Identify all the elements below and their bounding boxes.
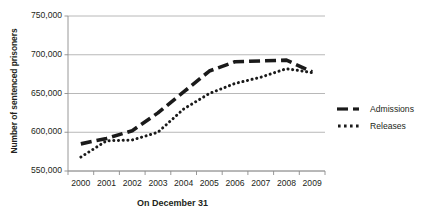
- legend-label-admissions: Admissions: [370, 104, 414, 114]
- legend-item-admissions: Admissions: [337, 100, 414, 117]
- legend-swatch-dashed: [337, 104, 365, 114]
- x-axis-tick-label: 2000: [67, 178, 95, 188]
- x-axis-tick-label: 2006: [221, 178, 249, 188]
- x-axis-tick-label: 2008: [272, 178, 300, 188]
- x-axis-tick-label: 2005: [195, 178, 223, 188]
- legend-swatch-dotted: [337, 121, 365, 131]
- chart-legend: Admissions Releases: [337, 100, 414, 134]
- x-axis-tick-label: 2004: [170, 178, 198, 188]
- x-axis-tick-label: 2007: [247, 178, 275, 188]
- x-axis-title: On December 31: [0, 198, 345, 208]
- x-axis-tick-label: 2002: [118, 178, 146, 188]
- legend-item-releases: Releases: [337, 117, 414, 134]
- x-axis-tick-label: 2009: [298, 178, 326, 188]
- line-chart: Number of sentenced prisoners 550,000600…: [0, 0, 421, 216]
- x-axis-tick-label: 2001: [93, 178, 121, 188]
- legend-label-releases: Releases: [370, 121, 406, 131]
- x-axis-tick-label: 2003: [144, 178, 172, 188]
